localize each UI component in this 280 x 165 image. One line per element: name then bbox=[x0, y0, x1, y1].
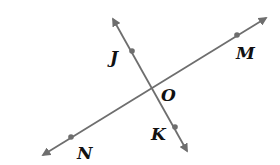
point-j bbox=[129, 48, 135, 54]
line-jk bbox=[113, 19, 187, 151]
label-m: M bbox=[235, 43, 256, 63]
label-k: K bbox=[150, 124, 167, 144]
label-j: J bbox=[107, 47, 119, 67]
geometry-diagram: J M O K N bbox=[0, 0, 280, 165]
label-n: N bbox=[76, 143, 94, 163]
point-k bbox=[172, 124, 178, 130]
point-m bbox=[234, 32, 240, 38]
point-n bbox=[68, 134, 74, 140]
label-o: O bbox=[161, 85, 176, 105]
